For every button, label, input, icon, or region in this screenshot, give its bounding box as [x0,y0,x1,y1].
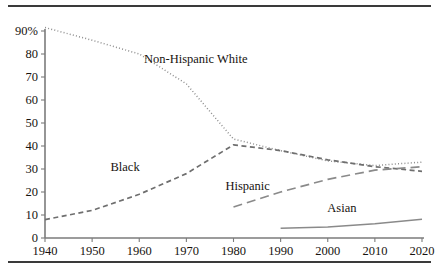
y-tick-label: 70 [26,70,39,84]
series-label-group: Non-Hispanic WhiteBlackHispanicAsian [111,52,358,214]
y-tick-label: 90% [15,24,38,38]
x-tick-label: 2020 [410,244,435,258]
y-axis-tick-group: 0102030405060708090% [15,24,45,245]
y-tick-label: 10 [26,208,39,222]
line-chart-figure: 0102030405060708090% 1940195019601970198… [0,0,439,273]
y-tick-label: 40 [26,139,39,153]
x-tick-label: 1960 [127,244,152,258]
y-tick-label: 80 [26,47,39,61]
series-label-asian: Asian [327,201,357,215]
x-axis-tick-group: 194019501960197019801990200020102020 [33,238,435,258]
series-label-hispanic: Hispanic [225,179,270,193]
x-tick-label: 2010 [362,244,387,258]
x-tick-label: 1980 [221,244,246,258]
series-line-asian [281,219,422,228]
series-label-non-hispanic-white: Non-Hispanic White [144,52,248,66]
x-tick-label: 1940 [33,244,58,258]
x-tick-label: 1970 [174,244,199,258]
y-tick-label: 20 [26,185,39,199]
y-tick-label: 50 [26,116,39,130]
series-label-black: Black [111,160,141,174]
y-tick-label: 30 [26,162,39,176]
x-tick-label: 2000 [315,244,340,258]
x-tick-label: 1950 [80,244,105,258]
y-tick-label: 60 [26,93,39,107]
x-tick-label: 1990 [268,244,293,258]
